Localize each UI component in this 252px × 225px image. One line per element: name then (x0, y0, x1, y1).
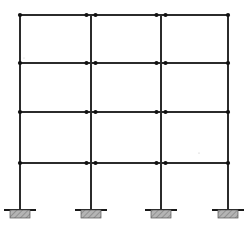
node-L4-C2-left (84, 13, 88, 17)
node-L1-C3-left (154, 161, 158, 165)
node-L1-C2-left (84, 161, 88, 165)
node-L3-C2-left (84, 61, 88, 65)
node-L3-C3-right (163, 61, 167, 65)
node-L3-C3-left (154, 61, 158, 65)
structural-frame-figure (0, 0, 252, 225)
node-L4-C1 (18, 13, 22, 17)
node-L2-C3-left (154, 110, 158, 114)
node-L4-C3-left (154, 13, 158, 17)
node-L3-C4 (226, 61, 230, 65)
stray-speck (24, 58, 25, 59)
footing-fixed-support-2 (81, 210, 101, 218)
stray-speck (198, 152, 199, 153)
node-L1-C1 (18, 161, 22, 165)
node-L3-C1 (18, 61, 22, 65)
frame-diagram-canvas (0, 0, 252, 225)
node-L3-C2-right (93, 61, 97, 65)
footing-fixed-support-3 (151, 210, 171, 218)
node-L1-C3-right (163, 161, 167, 165)
node-L2-C4 (226, 110, 230, 114)
node-L2-C2-left (84, 110, 88, 114)
node-L2-C3-right (163, 110, 167, 114)
node-L1-C4 (226, 161, 230, 165)
node-L2-C2-right (93, 110, 97, 114)
node-L1-C2-right (93, 161, 97, 165)
node-L4-C2-right (93, 13, 97, 17)
node-L4-C3-right (163, 13, 167, 17)
footing-fixed-support-4 (218, 210, 238, 218)
node-L4-C4 (226, 13, 230, 17)
footing-fixed-support-1 (10, 210, 30, 218)
node-L2-C1 (18, 110, 22, 114)
